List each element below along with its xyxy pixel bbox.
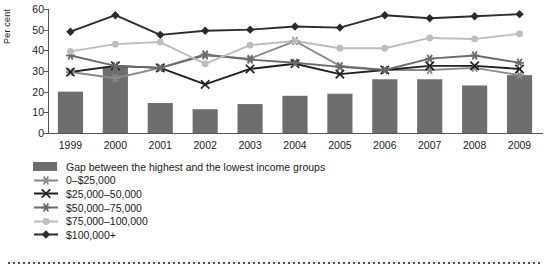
chart-legend: Gap between the highest and the lowest i…: [33, 160, 453, 242]
series-line: [70, 41, 519, 78]
data-point-marker-circle: [112, 41, 119, 48]
data-point-marker-diamond: [156, 31, 164, 39]
legend-item: Gap between the highest and the lowest i…: [33, 160, 453, 174]
bar: [327, 94, 352, 133]
legend-item: $100,000+: [33, 228, 453, 242]
legend-label: Gap between the highest and the lowest i…: [66, 161, 325, 173]
x-tick-label: 2001: [138, 136, 183, 154]
legend-marker-circle: [33, 215, 59, 228]
bar: [238, 104, 263, 133]
data-point-marker-diamond: [246, 25, 254, 33]
data-point-marker-circle: [337, 45, 344, 52]
data-point-marker-diamond: [201, 27, 209, 35]
data-point-marker-circle: [202, 60, 209, 67]
data-point-marker-circle: [471, 36, 478, 43]
x-tick-label: 2009: [497, 136, 542, 154]
data-point-marker-circle: [247, 42, 254, 49]
y-tick-mark: [44, 30, 48, 31]
legend-label: 0–$25,000: [66, 174, 116, 186]
legend-label: $50,000–75,000: [66, 202, 142, 214]
legend-label: $75,000–100,000: [66, 215, 148, 227]
data-point-marker-x: [201, 80, 209, 88]
y-tick-mark: [44, 133, 48, 134]
bar: [372, 79, 397, 133]
legend-label: $100,000+: [66, 229, 116, 241]
legend-item: $50,000–75,000: [33, 201, 453, 215]
x-tick-label: 2008: [452, 136, 497, 154]
data-point-marker-circle: [381, 45, 388, 52]
data-point-marker-diamond: [515, 10, 523, 18]
chart-figure: Per cent 6050403020100 19992000200120022…: [0, 0, 550, 274]
legend-marker-x: [33, 187, 59, 200]
bar: [58, 92, 83, 133]
data-point-marker-circle: [43, 218, 50, 225]
data-point-marker-diamond: [291, 22, 299, 30]
x-tick-label: 2006: [362, 136, 407, 154]
x-tick-label: 2005: [317, 136, 362, 154]
data-point-marker-asterisk: [42, 177, 51, 185]
data-point-marker-circle: [292, 38, 299, 45]
legend-item: 0–$25,000: [33, 174, 453, 188]
data-point-marker-asterisk: [42, 204, 51, 212]
x-tick-label: 1999: [48, 136, 93, 154]
x-tick-label: 2007: [407, 136, 452, 154]
x-axis-labels: 1999200020012002200320042005200620072008…: [48, 136, 542, 154]
x-tick-label: 2002: [183, 136, 228, 154]
data-point-marker-circle: [426, 35, 433, 42]
bar: [417, 79, 442, 133]
data-point-marker-diamond: [470, 12, 478, 20]
legend-label: $25,000–50,000: [66, 188, 142, 200]
footer-dotted-divider: [8, 262, 542, 264]
legend-item: $25,000–50,000: [33, 187, 453, 201]
legend-marker-asterisk: [33, 174, 59, 187]
data-point-marker-asterisk: [425, 55, 434, 63]
data-point-marker-diamond: [381, 11, 389, 19]
data-point-marker-diamond: [426, 14, 434, 22]
legend-marker-diamond: [33, 228, 59, 241]
bar: [148, 103, 173, 133]
plot-area: Per cent 6050403020100 19992000200120022…: [0, 0, 550, 160]
y-tick-mark: [44, 92, 48, 93]
y-tick-mark: [44, 71, 48, 72]
data-point-marker-diamond: [111, 11, 119, 19]
bar: [507, 75, 532, 133]
x-tick-label: 2003: [228, 136, 273, 154]
y-tick-mark: [44, 9, 48, 10]
data-point-marker-diamond: [42, 231, 50, 239]
bar: [282, 96, 307, 133]
legend-item: $75,000–100,000: [33, 214, 453, 228]
data-point-marker-asterisk: [470, 52, 479, 60]
y-tick-mark: [44, 50, 48, 51]
data-point-marker-diamond: [66, 28, 74, 36]
y-tick-mark: [44, 112, 48, 113]
bar: [193, 109, 218, 133]
x-tick-label: 2000: [93, 136, 138, 154]
legend-swatch: [33, 162, 57, 171]
data-point-marker-diamond: [336, 23, 344, 31]
legend-marker-bar: [33, 160, 59, 173]
data-point-marker-circle: [157, 39, 164, 46]
data-point-marker-circle: [516, 30, 523, 37]
legend-marker-asterisk: [33, 201, 59, 214]
x-tick-label: 2004: [273, 136, 318, 154]
bar: [462, 85, 487, 133]
data-point-marker-circle: [67, 48, 74, 55]
